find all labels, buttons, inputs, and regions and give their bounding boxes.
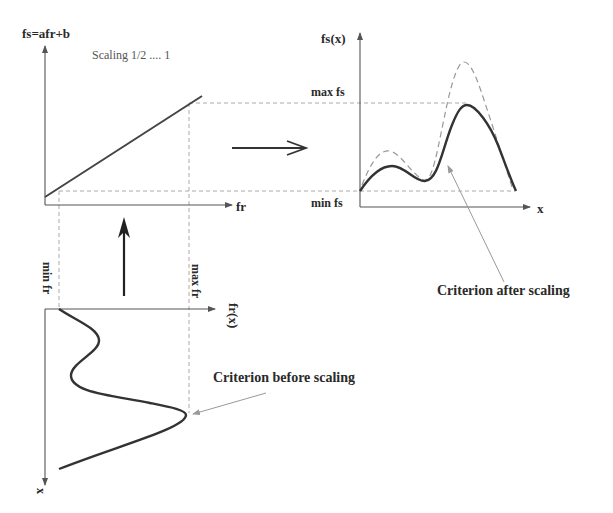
scaling-line	[45, 96, 202, 197]
scaling-annotation: Scaling 1/2 .... 1	[92, 48, 170, 62]
callout-before-scaling: Criterion before scaling	[213, 370, 355, 385]
guide-lines	[59, 103, 515, 413]
unscaled-curve-dashed	[362, 62, 513, 190]
panel-criterion-after: fs(x) x max fs min fs Criterion after sc…	[311, 31, 570, 298]
y-axis-label: fs(x)	[321, 31, 346, 46]
min-fs-label: min fs	[311, 196, 343, 210]
scaled-curve-solid	[360, 105, 516, 191]
raw-curve-solid	[59, 309, 186, 469]
x-axis-label: fr	[236, 199, 246, 214]
scaling-diagram: fs=afr+b fr Scaling 1/2 .... 1 fs(x) x m…	[0, 0, 613, 513]
y-axis-label: fs=afr+b	[22, 26, 70, 41]
up-arrow-icon	[118, 217, 130, 296]
panel-criterion-before: min fr max fr fr(x) x Criterion before s…	[34, 262, 355, 494]
x-axis-label: x	[34, 488, 48, 494]
max-fr-label: max fr	[189, 264, 203, 299]
right-arrow-icon	[232, 141, 306, 155]
x-axis-label: x	[537, 201, 544, 216]
callout-pointer	[193, 393, 266, 414]
callout-after-scaling: Criterion after scaling	[437, 283, 570, 298]
min-fr-label: min fr	[40, 262, 54, 295]
callout-pointer	[448, 166, 504, 282]
max-fs-label: max fs	[311, 85, 345, 99]
y-axis-label: fr(x)	[226, 303, 241, 328]
panel-scaling-function: fs=afr+b fr Scaling 1/2 .... 1	[22, 26, 246, 214]
